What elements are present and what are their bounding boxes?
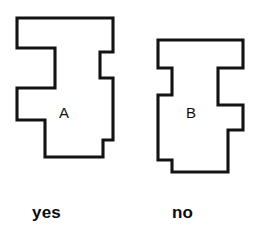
caption-yes: yes xyxy=(32,204,61,221)
shape-comparison-figure: A B yes no xyxy=(0,0,272,243)
shape-b-outline xyxy=(158,40,243,172)
caption-no: no xyxy=(172,204,193,221)
shape-a-outline xyxy=(17,18,113,157)
shape-b-label: B xyxy=(186,105,196,120)
shape-a-label: A xyxy=(59,105,69,120)
